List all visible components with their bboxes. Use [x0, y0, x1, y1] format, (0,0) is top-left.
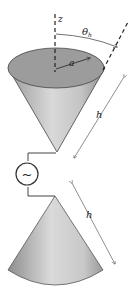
cone-edge-extension	[103, 22, 128, 70]
top-cone	[8, 48, 105, 152]
height-label-bottom: h	[86, 209, 92, 220]
theta-label: θh	[82, 26, 92, 38]
theta-subscript: h	[88, 31, 92, 38]
biconical-antenna-diagram: z θh a h h ~	[0, 0, 133, 301]
z-label: z	[57, 14, 63, 24]
radius-label: a	[69, 58, 74, 68]
height-label-top: h	[96, 109, 102, 120]
top-disk	[8, 48, 104, 88]
source-tilde: ~	[22, 167, 33, 182]
